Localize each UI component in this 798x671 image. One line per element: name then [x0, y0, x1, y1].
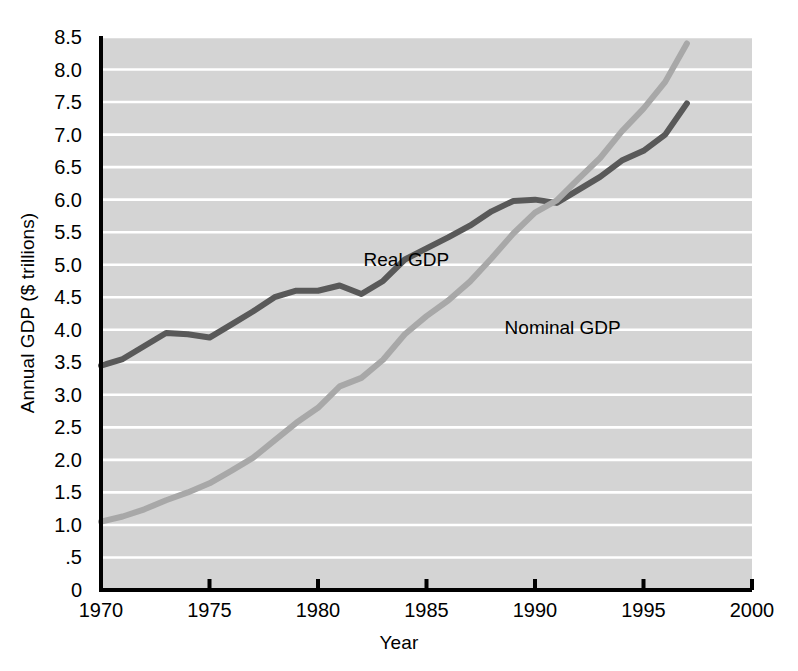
series-label-nominal-gdp: Nominal GDP [505, 317, 621, 339]
gdp-line-chart: Annual GDP ($ trillions) Year 0.51.01.52… [0, 0, 798, 671]
plot-canvas [0, 0, 798, 671]
series-label-real-gdp: Real GDP [364, 249, 450, 271]
